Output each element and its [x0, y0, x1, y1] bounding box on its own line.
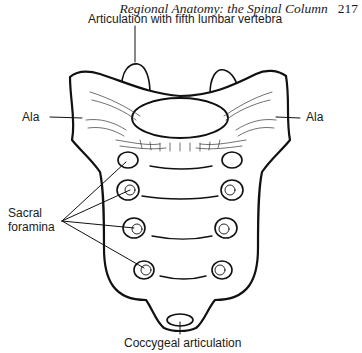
label-coccygeal-articulation: Coccygeal articulation	[124, 336, 241, 350]
foramen-left-1	[118, 152, 138, 168]
sacrum-outline	[70, 71, 290, 331]
label-lumbar-articulation: Articulation with fifth lumbar vertebra	[88, 12, 282, 26]
label-sacral-foramina-2: foramina	[8, 220, 55, 234]
label-sacral-foramina-1: Sacral	[8, 206, 42, 220]
foramen-right-2	[221, 180, 243, 200]
foramen-right-1	[222, 152, 242, 168]
foramen-left-2	[117, 180, 139, 200]
label-ala-right: Ala	[306, 110, 323, 124]
label-ala-left: Ala	[22, 110, 39, 124]
foramen-right-3	[215, 218, 237, 238]
sacrum-illustration	[0, 0, 362, 353]
